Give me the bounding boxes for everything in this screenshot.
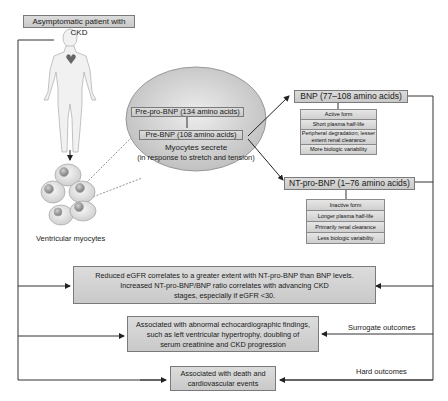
pre-bnp-box: Pre-BNP (108 amino acids) <box>139 130 243 140</box>
bnp-property: Peripheral degradation; lesser extent re… <box>301 130 376 145</box>
surrogate-line: such as left ventricular hypertrophy, do… <box>128 330 318 340</box>
secrete-sublabel: (in response to stretch and tension) <box>136 153 256 162</box>
bnp-property: More biologic variability <box>301 145 376 154</box>
hard-line: cardiovascular events <box>171 379 275 389</box>
ntprobnp-properties-table: Inactive form Longer plasma half-life Pr… <box>306 199 385 244</box>
patient-title-box: Asymptomatic patient with CKD <box>23 15 135 28</box>
ntprobnp-property: Primarily renal clearance <box>307 222 384 233</box>
hard-outcome-box: Associated with death and cardiovascular… <box>170 366 276 391</box>
egfr-outcome-box: Reduced eGFR correlates to a greater ext… <box>73 266 376 304</box>
bnp-properties-table: Active form Short plasma half-life Perip… <box>300 109 377 155</box>
egfr-line: Reduced eGFR correlates to a greater ext… <box>74 271 375 281</box>
bnp-property: Active form <box>301 110 376 120</box>
surrogate-line: serum creatinine and CKD progression <box>128 340 318 350</box>
bnp-property: Short plasma half-life <box>301 120 376 130</box>
hard-outcomes-label: Hard outcomes <box>356 367 407 376</box>
cells-label: Ventricular myocytes <box>36 234 105 243</box>
ntprobnp-title-box: NT-pro-BNP (1–76 amino acids) <box>284 177 415 190</box>
surrogate-line: Associated with abnormal echocardiograph… <box>128 320 318 330</box>
bnp-title-box: BNP (77–108 amino acids) <box>294 90 408 103</box>
ntprobnp-property: Less biologic variability <box>307 233 384 243</box>
egfr-line: Increased NT-pro-BNP/BNP ratio correlate… <box>74 281 375 291</box>
egfr-line: stages, especially if eGFR <30. <box>74 291 375 301</box>
hard-line: Associated with death and <box>171 369 275 379</box>
surrogate-outcome-box: Associated with abnormal echocardiograph… <box>127 316 319 352</box>
myocyte-cells-icon <box>41 164 96 225</box>
secrete-label: Myocytes secrete <box>146 143 246 152</box>
ntprobnp-property: Longer plasma half-life <box>307 211 384 222</box>
ntprobnp-property: Inactive form <box>307 200 384 211</box>
surrogate-outcomes-label: Surrogate outcomes <box>348 323 416 332</box>
pre-pro-bnp-box: Pre-pro-BNP (134 amino acids) <box>131 107 244 117</box>
human-body-icon <box>44 29 96 152</box>
